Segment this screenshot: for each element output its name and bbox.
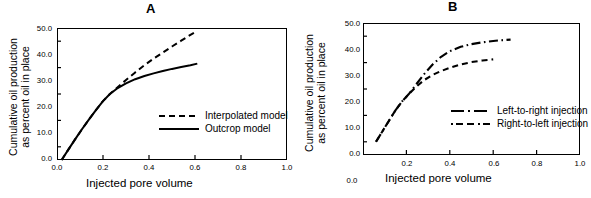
panel-b: B Cumulative oil production as percent o… (300, 0, 591, 198)
panel-a-ytick-10: 10.0 (22, 129, 52, 137)
panel-a-xtick-0-6: 0.6 (181, 164, 209, 172)
panel-a-xtick-0-0: 0.0 (43, 164, 71, 172)
panel-a-y-axis-label: Cumulative oil production as percent oil… (8, 22, 31, 172)
panel-b-xtick-0-8: 0.8 (523, 160, 551, 168)
panel-b-xtick-1-0: 1.0 (566, 160, 591, 168)
panel-b-ytick-10: 10.0 (330, 124, 360, 132)
panel-a-legend-item-interpolated-model: Interpolated model (158, 109, 288, 122)
panel-b-y-axis-label-line2: as percent oil in place (316, 18, 328, 168)
panel-b-y-ticks (363, 36, 367, 142)
panel-b-ytick-30: 30.0 (330, 72, 360, 80)
panel-a-y-axis-label-line1: Cumulative oil production (8, 22, 20, 172)
panel-b-x-axis-label: Injected pore volume (385, 172, 492, 184)
panel-a-xtick-0-4: 0.4 (135, 164, 163, 172)
panel-a-series-interpolated-model (62, 31, 198, 160)
panel-a-ytick-30: 30.0 (22, 77, 52, 85)
panel-a-ytick-0: 0.0 (22, 155, 52, 163)
panel-b-legend-item-left-to-right-injection: Left-to-right injection (450, 104, 588, 117)
panel-b-x-ticks (406, 150, 536, 155)
panel-b-xtick-0-6: 0.6 (480, 160, 508, 168)
panel-b-ytick-40: 40.0 (330, 46, 360, 54)
figure-two-panel-oil-production: A Cumulative oil production as percent o… (0, 0, 591, 198)
panel-b-legend-key-dashdot (450, 105, 492, 117)
panel-a-legend-label-interpolated-model: Interpolated model (205, 109, 288, 122)
panel-b-xtick-0-4: 0.4 (436, 160, 464, 168)
panel-b-y-axis-label: Cumulative oil production as percent oil… (304, 18, 327, 168)
clipped-caption-fragment (0, 192, 591, 198)
panel-a-legend: Interpolated model Outcrop model (158, 109, 288, 135)
panel-a-x-ticks (103, 155, 241, 160)
panel-a-ytick-20: 20.0 (22, 103, 52, 111)
panel-a-y-axis-label-line2: as percent oil in place (20, 22, 32, 172)
panel-b-xtick-0-2: 0.2 (393, 160, 421, 168)
panel-b-ytick-0: 0.0 (330, 150, 360, 158)
panel-b-legend-key-dashed (450, 118, 492, 130)
panel-a-x-axis-label: Injected pore volume (86, 177, 193, 189)
panel-a-ytick-40: 40.0 (22, 51, 52, 59)
panel-a-ytick-50: 50.0 (22, 25, 52, 33)
panel-a-title: A (146, 2, 156, 15)
panel-a-legend-key-solid (158, 123, 200, 135)
panel-b-legend-label-left-to-right-injection: Left-to-right injection (497, 104, 588, 117)
panel-a-xtick-0-2: 0.2 (89, 164, 117, 172)
panel-a-y-ticks (57, 41, 61, 147)
panel-a-curves (57, 28, 287, 160)
panel-b-ytick-20: 20.0 (330, 98, 360, 106)
panel-a: A Cumulative oil production as percent o… (0, 0, 300, 198)
panel-b-legend-label-right-to-left-injection: Right-to-left injection (497, 117, 588, 130)
panel-a-legend-label-outcrop-model: Outcrop model (205, 122, 271, 135)
panel-b-legend-item-right-to-left-injection: Right-to-left injection (450, 117, 588, 130)
panel-b-xtick-0-0: 0.0 (338, 177, 366, 185)
panel-b-curves (363, 23, 580, 155)
panel-b-y-axis-label-line1: Cumulative oil production (304, 18, 316, 168)
panel-a-legend-item-outcrop-model: Outcrop model (158, 122, 288, 135)
panel-b-ytick-50: 50.0 (330, 20, 360, 28)
panel-b-legend: Left-to-right injection Right-to-left in… (450, 104, 588, 130)
panel-b-title: B (448, 0, 458, 13)
panel-a-legend-key-dashed (158, 110, 200, 122)
panel-a-xtick-1-0: 1.0 (273, 164, 301, 172)
panel-a-xtick-0-8: 0.8 (227, 164, 255, 172)
